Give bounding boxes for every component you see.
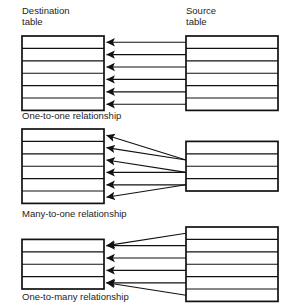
dest-one-to-many-table-row <box>22 239 104 251</box>
dest-one-to-many-table-row <box>22 264 104 276</box>
dest-one-to-one-table-row <box>22 86 104 98</box>
src-one-to-many-table-row <box>186 252 278 264</box>
src-many-to-one-table-row <box>186 166 278 178</box>
source-table-header-line1: Source <box>186 5 216 16</box>
src-one-to-one-table-row <box>186 61 278 73</box>
dest-one-to-many-table-row <box>22 277 104 289</box>
links-many-to-one <box>107 135 187 197</box>
dest-one-to-one-table-row <box>22 36 104 48</box>
src-one-to-many-table-row <box>186 227 278 239</box>
dest-one-to-one-table-row <box>22 61 104 73</box>
dest-one-to-one-table-row <box>22 73 104 85</box>
destination-table-header-line1: Destination <box>22 5 70 16</box>
dest-many-to-one-table-row <box>22 179 104 191</box>
src-many-to-one-table-row <box>186 141 278 153</box>
caption-many-to-one: Many-to-one relationship <box>22 208 127 219</box>
dest-many-to-one-table-row <box>22 166 104 178</box>
destination-table-header-line2: table <box>22 16 43 27</box>
src-many-to-one-table-row <box>186 179 278 191</box>
src-one-to-many-table-row <box>186 289 278 301</box>
dest-many-to-one-table-row <box>22 191 104 203</box>
relationship-diagram: Destination table Source table One-to-on… <box>0 0 283 308</box>
relationship-arrow <box>107 148 187 160</box>
src-one-to-many-table <box>186 227 278 301</box>
links-one-to-many <box>107 233 187 295</box>
relationship-arrow <box>107 185 187 197</box>
source-table-header-line2: table <box>186 16 207 27</box>
src-one-to-one-table-row <box>186 86 278 98</box>
dest-one-to-one-table <box>22 36 104 110</box>
src-many-to-one-table-row <box>186 154 278 166</box>
caption-one-to-many: One-to-many relationship <box>22 291 129 302</box>
dest-many-to-one-table <box>22 129 104 203</box>
relationship-arrow <box>107 135 187 160</box>
dest-one-to-one-table-row <box>22 48 104 60</box>
dest-many-to-one-table-row <box>22 154 104 166</box>
dest-many-to-one-table-row <box>22 141 104 153</box>
relationship-arrow <box>107 233 187 245</box>
src-one-to-many-table-row <box>186 239 278 251</box>
relationship-arrow <box>107 160 187 172</box>
dest-many-to-one-table-row <box>22 129 104 141</box>
src-one-to-one-table-row <box>186 73 278 85</box>
dest-one-to-many-table-row <box>22 252 104 264</box>
dest-one-to-one-table-row <box>22 98 104 110</box>
src-one-to-many-table-row <box>186 277 278 289</box>
src-one-to-many-table-row <box>186 264 278 276</box>
dest-one-to-many-table <box>22 239 104 289</box>
src-one-to-one-table-row <box>186 48 278 60</box>
diagram-canvas: Destination table Source table One-to-on… <box>0 0 283 308</box>
links-one-to-one <box>107 42 187 104</box>
caption-one-to-one: One-to-one relationship <box>22 110 121 121</box>
src-one-to-one-table <box>186 36 278 110</box>
diagram-geometry <box>22 36 278 301</box>
src-one-to-one-table-row <box>186 98 278 110</box>
src-one-to-one-table-row <box>186 36 278 48</box>
src-many-to-one-table <box>186 141 278 191</box>
